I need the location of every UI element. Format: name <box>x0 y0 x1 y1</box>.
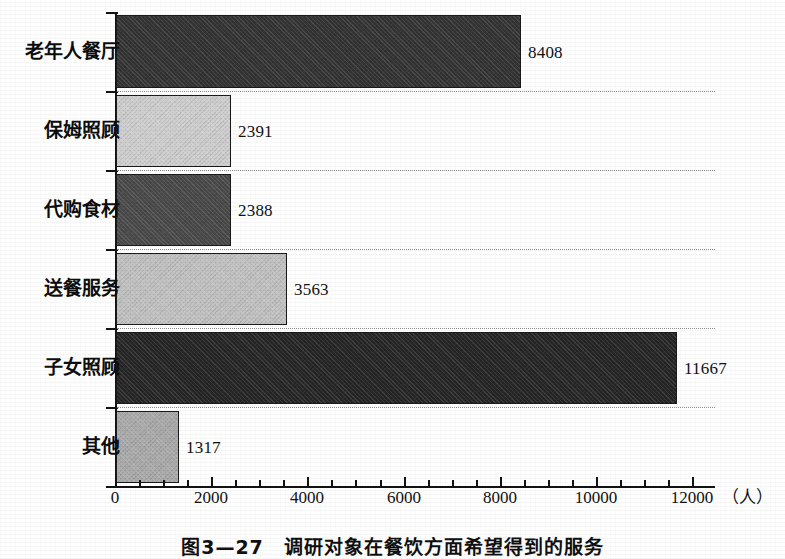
bar-texture <box>117 333 676 403</box>
x-axis-tick-label: 12000 <box>671 489 714 506</box>
figure-container: 8408 2391 2388 3563 11667 1317 老年人餐厅 保姆照… <box>0 0 785 559</box>
x-axis-tick-label: 2000 <box>194 489 228 506</box>
x-axis-tick-label: 10000 <box>575 489 618 506</box>
category-label-meal-delivery: 送餐服务 <box>44 279 120 298</box>
bar-value-label: 3563 <box>294 281 329 298</box>
category-label-nanny-care: 保姆照顾 <box>44 121 120 140</box>
bar-children-care[interactable] <box>116 332 677 404</box>
x-axis-unit-label: （人） <box>722 489 773 506</box>
x-axis-minor-tick <box>548 480 550 487</box>
bar-elderly-canteen[interactable] <box>116 15 521 88</box>
x-axis-major-tick <box>307 477 309 487</box>
bar-texture <box>117 254 286 324</box>
x-axis-major-tick <box>115 477 117 487</box>
bar-grocery-proxy[interactable] <box>116 174 231 246</box>
x-axis-minor-tick <box>620 480 622 487</box>
bar-value-label: 1317 <box>186 439 221 456</box>
x-axis-tick-label: 4000 <box>290 489 324 506</box>
x-axis-major-tick <box>211 477 213 487</box>
x-axis-minor-tick <box>163 480 165 487</box>
x-axis-minor-tick <box>235 480 237 487</box>
x-axis-minor-tick <box>668 480 670 487</box>
category-label-other: 其他 <box>82 437 120 456</box>
x-axis-tick-label: 8000 <box>483 489 517 506</box>
bar-other[interactable] <box>116 411 179 483</box>
x-axis-minor-tick <box>452 480 454 487</box>
bar-chart-plot: 8408 2391 2388 3563 11667 1317 老年人餐厅 保姆照… <box>0 0 785 500</box>
bar-value-label: 2388 <box>238 202 273 219</box>
x-axis-minor-tick <box>259 480 261 487</box>
category-label-children-care: 子女照顾 <box>44 358 120 377</box>
bar-texture <box>117 16 520 87</box>
bar-texture <box>117 175 230 245</box>
x-axis-minor-tick <box>355 480 357 487</box>
category-label-elderly-canteen: 老年人餐厅 <box>25 42 120 61</box>
bar-value-label: 8408 <box>528 44 563 61</box>
x-axis-tick-label: 0 <box>111 489 120 506</box>
x-axis-minor-tick <box>331 480 333 487</box>
grid-line <box>117 170 715 171</box>
x-axis-minor-tick <box>139 480 141 487</box>
x-axis-major-tick <box>404 477 406 487</box>
bar-texture <box>117 412 178 482</box>
bar-value-label: 2391 <box>238 123 273 140</box>
x-axis-minor-tick <box>380 480 382 487</box>
x-axis-minor-tick <box>644 480 646 487</box>
x-axis-minor-tick <box>476 480 478 487</box>
x-axis-minor-tick <box>572 480 574 487</box>
figure-caption: 图3—27 调研对象在餐饮方面希望得到的服务 <box>0 532 785 559</box>
bar-meal-delivery[interactable] <box>116 253 287 325</box>
bar-value-label: 11667 <box>684 360 727 377</box>
x-axis-major-tick <box>500 477 502 487</box>
grid-line <box>117 91 715 92</box>
x-axis-minor-tick <box>187 480 189 487</box>
y-axis-tick <box>106 12 118 14</box>
x-axis-major-tick <box>596 477 598 487</box>
bar-texture <box>117 96 230 166</box>
category-label-grocery-proxy: 代购食材 <box>44 200 120 219</box>
x-axis-major-tick <box>692 477 694 487</box>
x-axis-tick-label: 6000 <box>387 489 421 506</box>
grid-line <box>117 249 715 250</box>
grid-line <box>117 407 715 408</box>
x-axis-minor-tick <box>283 480 285 487</box>
bar-nanny-care[interactable] <box>116 95 231 167</box>
grid-line <box>117 328 715 329</box>
x-axis-minor-tick <box>524 480 526 487</box>
x-axis-minor-tick <box>428 480 430 487</box>
